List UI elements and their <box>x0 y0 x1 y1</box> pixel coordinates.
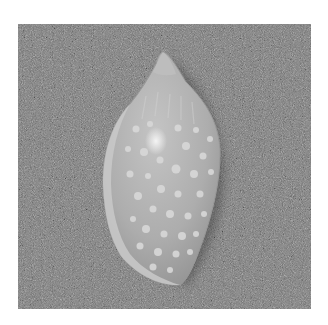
shell-highlight <box>145 127 167 155</box>
shell-photo: Grayscale photograph of a glossy spotted… <box>18 24 311 309</box>
shell-photo-graphic <box>18 24 311 309</box>
